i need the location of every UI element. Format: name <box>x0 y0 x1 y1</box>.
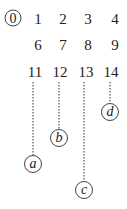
root-node-circle: 0 <box>5 10 22 27</box>
grid-number: 4 <box>111 11 119 27</box>
grid-number: 9 <box>111 37 119 53</box>
leaf-node-d: d <box>101 103 119 121</box>
diagram-canvas: 01234678911121314abcd <box>0 0 127 209</box>
grid-number: 2 <box>59 11 67 27</box>
grid-number: 3 <box>84 11 92 27</box>
grid-number: 11 <box>28 64 42 80</box>
leaf-node-c: c <box>75 181 93 199</box>
grid-number: 13 <box>79 64 94 80</box>
grid-number: 14 <box>104 64 119 80</box>
grid-number: 12 <box>53 64 68 80</box>
leaf-node-b: b <box>50 129 68 147</box>
grid-number: 1 <box>34 11 42 27</box>
leaf-node-a: a <box>24 155 42 173</box>
grid-number: 8 <box>84 37 92 53</box>
grid-number: 7 <box>59 37 67 53</box>
grid-number: 6 <box>34 37 42 53</box>
